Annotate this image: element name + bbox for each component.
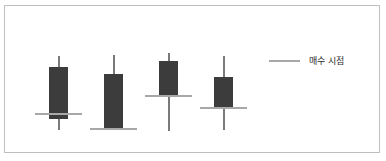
buy-marker-3 bbox=[145, 95, 192, 97]
candle-body-2 bbox=[104, 74, 123, 129]
chart-frame: 매수 시점 bbox=[4, 5, 380, 153]
legend-line-icon bbox=[269, 60, 300, 62]
legend-label: 매수 시점 bbox=[309, 54, 345, 67]
candle-body-1 bbox=[49, 67, 68, 119]
candle-body-3 bbox=[159, 61, 178, 96]
chart-legend: 매수 시점 bbox=[269, 54, 345, 67]
buy-marker-2 bbox=[90, 128, 137, 130]
plot-area: 매수 시점 bbox=[5, 6, 381, 154]
chart-screenshot: 매수 시점 bbox=[0, 0, 386, 161]
buy-marker-1 bbox=[35, 113, 82, 115]
buy-marker-4 bbox=[200, 107, 247, 109]
candle-body-4 bbox=[214, 77, 233, 107]
